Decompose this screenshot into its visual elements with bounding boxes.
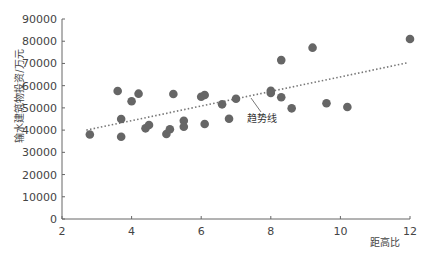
y-tick-label: 90000 [22, 13, 57, 26]
y-tick-label: 0 [50, 213, 57, 226]
x-tick-label: 8 [267, 225, 274, 238]
data-point [225, 114, 234, 123]
data-point [117, 115, 126, 124]
data-point [166, 125, 175, 134]
x-tick-label: 6 [198, 225, 205, 238]
data-point [267, 89, 276, 98]
data-point [145, 121, 154, 130]
trendline-annotation-label: 趋势线 [247, 112, 277, 124]
data-point [200, 120, 209, 129]
data-point [169, 90, 178, 99]
trendline-annotation-leader [251, 98, 261, 112]
y-tick-label: 70000 [22, 57, 57, 70]
x-tick-label: 12 [403, 225, 417, 238]
y-tick-label: 20000 [22, 169, 57, 182]
y-tick-label: 80000 [22, 35, 57, 48]
data-point [127, 97, 136, 106]
data-point [180, 122, 189, 131]
data-point [277, 56, 286, 65]
y-tick-label: 50000 [22, 102, 57, 115]
data-point [308, 43, 317, 52]
x-tick-label: 4 [128, 225, 135, 238]
data-point [113, 87, 122, 96]
y-axis-ticks: 0100002000030000400005000060000700008000… [22, 13, 65, 226]
data-points [86, 35, 415, 141]
y-axis-title: 输水建筑物投资/万元 [13, 49, 25, 142]
scatter-chart: 0100002000030000400005000060000700008000… [0, 0, 429, 258]
data-point [232, 94, 241, 103]
y-tick-label: 30000 [22, 146, 57, 159]
x-tick-label: 2 [59, 225, 66, 238]
data-point [277, 93, 286, 102]
x-axis-title: 距高比 [370, 236, 400, 248]
data-point [218, 100, 227, 109]
y-tick-label: 10000 [22, 191, 57, 204]
x-tick-label: 10 [333, 225, 347, 238]
data-point [117, 132, 126, 141]
data-point [343, 103, 352, 112]
data-point [322, 99, 331, 108]
data-point [134, 89, 143, 98]
data-point [86, 130, 95, 139]
data-point [200, 91, 209, 100]
y-tick-label: 40000 [22, 124, 57, 137]
data-point [287, 104, 296, 113]
data-point [406, 35, 415, 44]
y-tick-label: 60000 [22, 80, 57, 93]
